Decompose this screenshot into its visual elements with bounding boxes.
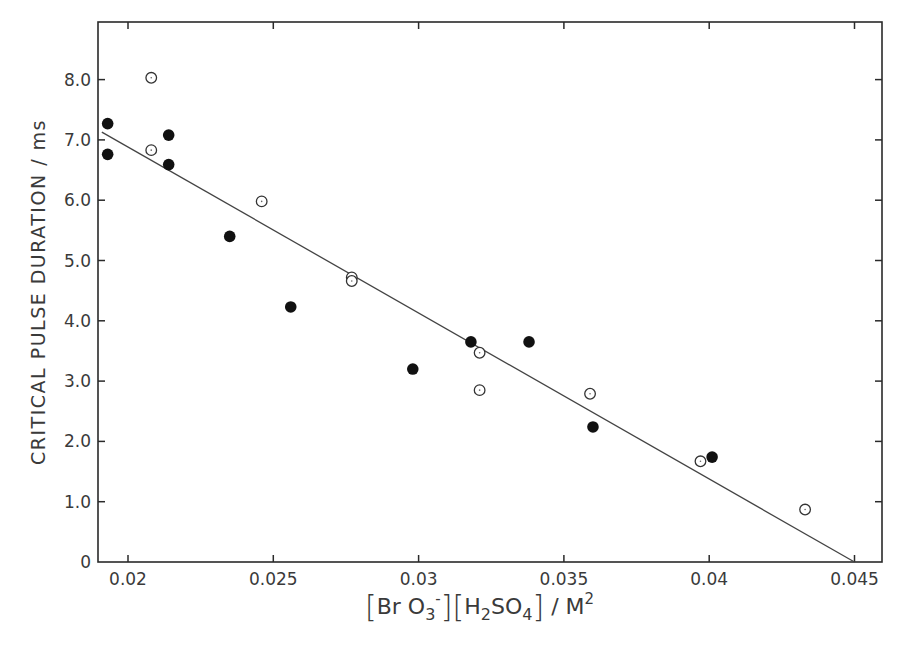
y-tick-label: 6.0 (64, 190, 91, 210)
filled-data-point (523, 336, 535, 348)
bracket: ] (532, 589, 544, 624)
x-tick-label: 0.035 (540, 569, 589, 589)
y-axis-title: CRITICAL PULSE DURATION / ms (27, 119, 49, 465)
y-tick-label: 8.0 (64, 70, 91, 90)
unit-label: / M (544, 594, 584, 619)
bracket: [ (365, 589, 377, 624)
x-axis-ticks: 0.020.0250.030.0350.040.045 (109, 22, 879, 589)
x-tick-label: 0.02 (109, 569, 147, 589)
sulfuric-acid-label: H (464, 594, 481, 619)
x-axis-title: [Br O3-][H2SO4] / M2 (365, 589, 594, 624)
superscript: 2 (585, 590, 595, 608)
bromate-label: Br O (377, 594, 425, 619)
filled-data-point (706, 451, 718, 463)
y-axis-ticks: 01.02.03.04.05.06.07.08.0 (64, 70, 882, 572)
y-tick-label: 4.0 (64, 311, 91, 331)
filled-data-point (102, 149, 114, 161)
y-tick-label: 3.0 (64, 371, 91, 391)
x-tick-label: 0.045 (830, 569, 879, 589)
bracket: [ (453, 589, 465, 624)
y-tick-label: 1.0 (64, 492, 91, 512)
x-tick-label: 0.04 (690, 569, 728, 589)
filled-data-point (163, 159, 175, 171)
filled-data-point (407, 363, 419, 375)
y-tick-label: 5.0 (64, 251, 91, 271)
subscript: 3 (425, 605, 435, 624)
bracket: ] (441, 589, 453, 624)
data-points (102, 72, 811, 514)
filled-data-point (163, 129, 175, 141)
sulfuric-acid-label: SO (491, 594, 522, 619)
y-tick-label: 7.0 (64, 130, 91, 150)
x-tick-label: 0.025 (249, 569, 298, 589)
y-tick-label: 2.0 (64, 431, 91, 451)
x-tick-label: 0.03 (400, 569, 438, 589)
filled-data-point (285, 301, 297, 313)
scatter-chart: 0.020.0250.030.0350.040.045 01.02.03.04.… (0, 0, 902, 661)
subscript: 4 (522, 605, 532, 624)
plot-frame (98, 22, 882, 562)
filled-data-point (102, 118, 114, 130)
y-tick-label: 0 (80, 552, 91, 572)
filled-data-point (224, 231, 236, 243)
subscript: 2 (481, 605, 491, 624)
filled-data-point (465, 336, 477, 348)
filled-data-point (587, 421, 599, 433)
